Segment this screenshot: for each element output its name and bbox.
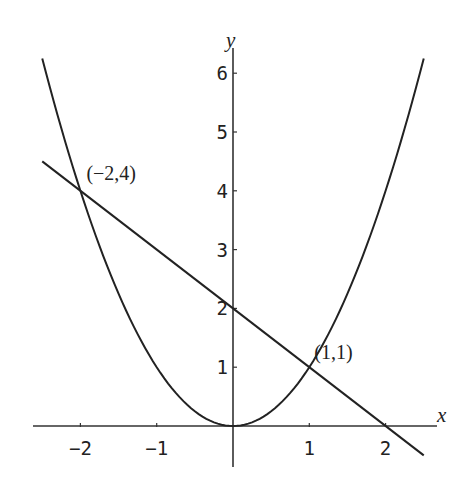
- chart-canvas: x y −2−112123456 (−2,4)(1,1): [0, 0, 469, 490]
- x-tick-label: 1: [304, 437, 315, 459]
- ticks: −2−112123456: [69, 62, 391, 459]
- y-tick-label: 1: [217, 356, 228, 378]
- axes: x y: [33, 28, 447, 467]
- y-tick-label: 4: [217, 180, 228, 202]
- y-tick-label: 6: [217, 62, 228, 84]
- x-axis-label: x: [436, 403, 447, 427]
- point-annotation: (1,1): [314, 341, 352, 364]
- x-tick-label: −2: [69, 437, 92, 459]
- x-tick-label: 2: [380, 437, 391, 459]
- y-axis-label: y: [224, 28, 236, 52]
- y-tick-label: 3: [217, 239, 228, 261]
- y-tick-label: 5: [217, 121, 228, 143]
- point-annotation: (−2,4): [86, 162, 136, 185]
- x-tick-label: −1: [145, 437, 168, 459]
